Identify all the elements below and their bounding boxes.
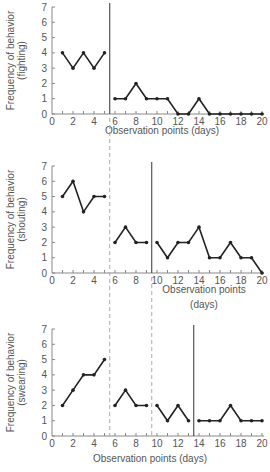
data-point [113, 241, 117, 245]
data-point [239, 112, 243, 116]
data-point [92, 195, 96, 199]
x-axis-label: Observation points [162, 284, 245, 295]
data-point [208, 112, 212, 116]
x-tick-label: 16 [214, 438, 226, 449]
data-point [61, 404, 65, 408]
chart-panel-1: Frequency of behavior(fighting)012345670… [5, 2, 268, 137]
y-tick-label: 3 [41, 222, 47, 233]
data-point [155, 97, 159, 101]
data-point [187, 241, 191, 245]
data-point [71, 179, 75, 183]
y-axis-label: Frequency of behavior [5, 10, 16, 110]
data-point [134, 404, 138, 408]
x-tick-label: 4 [91, 116, 97, 127]
data-point [71, 388, 75, 392]
data-point [71, 66, 75, 70]
y-tick-label: 7 [41, 2, 47, 13]
x-tick-label: 6 [112, 438, 118, 449]
y-tick-label: 5 [41, 191, 47, 202]
data-point [208, 256, 212, 260]
data-point [113, 97, 117, 101]
y-tick-label: 3 [41, 63, 47, 74]
data-series [63, 360, 105, 406]
data-series [199, 405, 262, 420]
x-tick-label: 8 [133, 438, 139, 449]
data-point [197, 97, 201, 101]
data-point [229, 404, 233, 408]
y-axis-label: (shouting) [16, 197, 27, 241]
x-axis-label: Observation points (days) [93, 453, 207, 464]
x-tick-label: 0 [49, 275, 55, 286]
x-tick-label: 2 [70, 116, 76, 127]
data-point [92, 66, 96, 70]
y-tick-label: 4 [41, 206, 47, 217]
data-point [124, 97, 128, 101]
data-point [229, 112, 233, 116]
y-tick-label: 4 [41, 47, 47, 58]
x-tick-label: 12 [172, 438, 184, 449]
data-point [124, 225, 128, 229]
data-point [197, 419, 201, 423]
y-tick-label: 4 [41, 369, 47, 380]
data-point [250, 112, 254, 116]
x-tick-label: 6 [112, 275, 118, 286]
y-tick-label: 2 [41, 237, 47, 248]
y-tick-label: 3 [41, 385, 47, 396]
x-axis-label: (days) [190, 299, 218, 310]
chart-panel-2: Frequency of behavior(shouting)012345670… [5, 161, 268, 311]
data-point [155, 404, 159, 408]
data-point [218, 256, 222, 260]
data-point [103, 51, 107, 55]
data-point [103, 195, 107, 199]
data-point [61, 195, 65, 199]
x-tick-label: 14 [193, 438, 205, 449]
x-tick-label: 0 [49, 438, 55, 449]
data-point [239, 419, 243, 423]
data-point [239, 256, 243, 260]
data-point [176, 241, 180, 245]
x-tick-label: 4 [91, 438, 97, 449]
data-point [260, 112, 264, 116]
y-tick-label: 5 [41, 354, 47, 365]
x-tick-label: 2 [70, 275, 76, 286]
data-point [197, 225, 201, 229]
y-tick-label: 0 [41, 268, 47, 279]
x-tick-label: 18 [235, 116, 247, 127]
y-tick-label: 0 [41, 109, 47, 120]
y-tick-label: 1 [41, 252, 47, 263]
data-point [82, 51, 86, 55]
y-tick-label: 6 [41, 17, 47, 28]
data-point [250, 419, 254, 423]
data-series [157, 227, 262, 273]
x-axis-label: Observation points (days) [105, 125, 219, 136]
y-tick-label: 6 [41, 176, 47, 187]
data-series [115, 83, 262, 114]
y-axis-label: Frequency of behavior [5, 169, 16, 269]
y-axis-label: (fighting) [16, 41, 27, 80]
multiple-baseline-chart: Frequency of behavior(fighting)012345670… [0, 0, 270, 472]
data-point [145, 241, 149, 245]
data-point [208, 419, 212, 423]
data-point [260, 271, 264, 275]
data-point [176, 404, 180, 408]
data-point [166, 419, 170, 423]
data-point [218, 112, 222, 116]
data-point [218, 419, 222, 423]
y-axis-label: Frequency of behavior [5, 332, 16, 432]
y-tick-label: 1 [41, 415, 47, 426]
x-tick-label: 10 [151, 275, 163, 286]
y-tick-label: 2 [41, 78, 47, 89]
data-point [166, 97, 170, 101]
data-point [61, 51, 65, 55]
data-point [176, 112, 180, 116]
x-tick-label: 20 [256, 275, 268, 286]
y-tick-label: 0 [41, 431, 47, 442]
x-tick-label: 4 [91, 275, 97, 286]
y-tick-label: 7 [41, 161, 47, 172]
x-tick-label: 20 [256, 116, 268, 127]
data-point [145, 404, 149, 408]
data-point [92, 373, 96, 377]
data-series [157, 405, 189, 420]
data-point [145, 97, 149, 101]
data-point [229, 241, 233, 245]
